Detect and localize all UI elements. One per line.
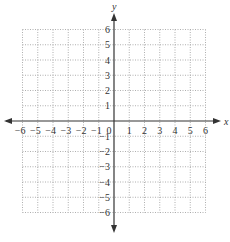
y-tick-label: −6: [99, 207, 110, 218]
x-tick-label: −6: [15, 125, 26, 136]
x-tick-label: −2: [76, 125, 87, 136]
y-tick-label: 5: [105, 39, 110, 50]
y-tick-label: 4: [105, 55, 110, 66]
y-tick-label: −4: [99, 177, 110, 188]
y-tick-label: −3: [99, 161, 110, 172]
y-tick-label: −2: [99, 146, 110, 157]
y-axis-label: y: [111, 1, 117, 12]
x-tick-label: 2: [142, 125, 147, 136]
y-tick-label: 3: [105, 70, 110, 81]
y-axis-down-arrow-icon: [111, 225, 117, 233]
x-tick-label: 4: [173, 125, 178, 136]
y-axis-up-arrow-icon: [111, 13, 117, 21]
x-axis-label: x: [223, 116, 229, 127]
x-axis-right-arrow-icon: [213, 118, 221, 124]
x-tick-labels: −6−5−4−3−2−10123456: [15, 125, 208, 136]
x-tick-label: −5: [30, 125, 41, 136]
y-tick-label: 1: [105, 100, 110, 111]
x-tick-label: 6: [203, 125, 208, 136]
y-tick-label: 6: [105, 24, 110, 35]
x-tick-label: 5: [188, 125, 193, 136]
coordinate-plane: x y −6−5−4−3−2−10123456 −6−5−4−3−2−11234…: [0, 0, 230, 242]
x-tick-label: −3: [61, 125, 72, 136]
x-tick-label: 3: [157, 125, 162, 136]
x-tick-label: 1: [127, 125, 132, 136]
y-tick-label: −5: [99, 192, 110, 203]
y-tick-label: −1: [99, 131, 110, 142]
x-axis-left-arrow-icon: [4, 118, 12, 124]
x-tick-label: −4: [45, 125, 56, 136]
y-tick-label: 2: [105, 85, 110, 96]
